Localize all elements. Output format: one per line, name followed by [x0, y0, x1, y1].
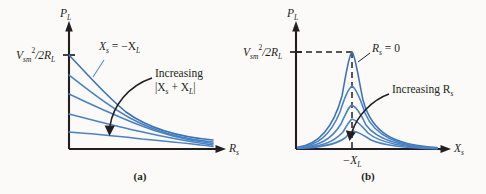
panel-a-annotation-line2: |Xs + XL| [155, 81, 196, 96]
panel-a-curve-label: Xs = −XL [98, 40, 140, 55]
figure-power-transfer: Vsm2/2RL PL Rs Xs = −XL Increasing |Xs +… [0, 0, 486, 194]
panel-a-caption: (a) [134, 170, 147, 183]
panel-b-curves [298, 52, 437, 149]
panel-b-curve-leader [358, 53, 370, 62]
panel-a-y-tick-label: Vsm2/2RL [16, 46, 55, 64]
panel-a-x-axis-label: Rs [228, 142, 239, 157]
panel-b-x-axis-label: Xs [453, 142, 464, 157]
panel-a-curve-leader [93, 60, 104, 77]
panel-a-annotation-line1: Increasing [155, 67, 203, 80]
panel-b-x-tick-label: −XL [343, 154, 362, 169]
panel-b-y-tick-label: Vsm2/2RL [243, 43, 282, 61]
panel-a: Vsm2/2RL PL Rs Xs = −XL Increasing |Xs +… [16, 7, 239, 183]
panel-b-caption: (b) [361, 170, 375, 183]
panel-b-y-axis [292, 21, 300, 149]
panel-b-y-axis-label: PL [286, 7, 298, 22]
panel-b-annotation: Increasing Rs [392, 83, 453, 98]
panel-a-y-axis [65, 21, 73, 149]
panel-b-curve-label: Rs = 0 [371, 42, 400, 57]
panel-a-y-axis-label: PL [59, 7, 71, 22]
panel-b: Vsm2/2RL PL Xs −XL Rs = 0 Increasing Rs … [243, 7, 464, 183]
panel-a-x-axis [69, 145, 226, 153]
curve-a-3 [69, 94, 213, 144]
